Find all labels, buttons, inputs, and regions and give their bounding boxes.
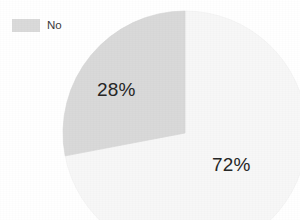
slice-label-28-percent: 28% [97, 80, 136, 99]
legend-swatch-no [12, 19, 40, 32]
slice-label-72-percent: 72% [212, 155, 251, 174]
legend-label-no: No [47, 20, 62, 32]
pie-chart-graphic [0, 0, 300, 220]
legend: No [12, 19, 62, 32]
pie-chart-figure: 28% 72% No [0, 0, 300, 220]
